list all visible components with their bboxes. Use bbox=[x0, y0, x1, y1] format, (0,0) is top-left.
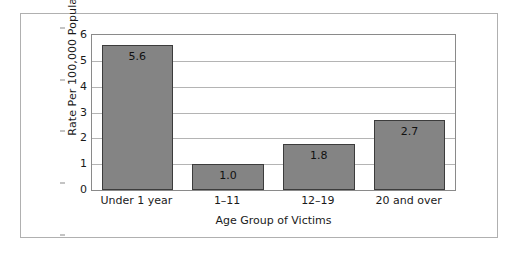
x-axis-title: Age Group of Victims bbox=[91, 214, 456, 227]
y-axis-tick-label: 4 bbox=[65, 79, 87, 92]
y-axis-tick-mark bbox=[60, 79, 65, 80]
bar[interactable]: 1.8 bbox=[283, 144, 355, 191]
y-axis-tick-labels: 0123456 bbox=[63, 34, 87, 191]
bar-value-label: 1.0 bbox=[193, 169, 263, 182]
x-axis-tick-label: Under 1 year bbox=[91, 194, 182, 207]
bar-value-label: 2.7 bbox=[375, 125, 445, 138]
y-axis-tick-mark bbox=[60, 131, 65, 132]
y-axis-tick-mark bbox=[60, 28, 65, 29]
x-axis-tick-label: 20 and over bbox=[363, 194, 454, 207]
y-axis-tick-mark bbox=[60, 183, 65, 184]
plot-area: 5.61.01.82.7 bbox=[91, 34, 456, 191]
y-axis-tick-mark bbox=[60, 234, 65, 235]
bar[interactable]: 2.7 bbox=[374, 120, 446, 190]
bar-chart: Rate Per 100,000 Population 0123456 5.61… bbox=[21, 14, 497, 237]
bar-value-label: 1.8 bbox=[284, 149, 354, 162]
bar-value-label: 5.6 bbox=[103, 50, 173, 63]
y-axis-tick-label: 2 bbox=[65, 131, 87, 144]
y-axis-tick-label: 1 bbox=[65, 157, 87, 170]
y-axis-tick-label: 6 bbox=[65, 28, 87, 41]
x-axis-tick-label: 1–11 bbox=[182, 194, 273, 207]
bar[interactable]: 1.0 bbox=[192, 164, 264, 190]
x-axis-tick-label: 12–19 bbox=[273, 194, 364, 207]
figure-frame: Rate Per 100,000 Population 0123456 5.61… bbox=[20, 13, 498, 238]
x-axis-tick-labels: Under 1 year1–1112–1920 and over bbox=[91, 194, 456, 212]
y-axis-tick-label: 5 bbox=[65, 53, 87, 66]
y-axis-tick-label: 3 bbox=[65, 105, 87, 118]
y-axis-tick-label: 0 bbox=[65, 183, 87, 196]
bar[interactable]: 5.6 bbox=[102, 45, 174, 190]
